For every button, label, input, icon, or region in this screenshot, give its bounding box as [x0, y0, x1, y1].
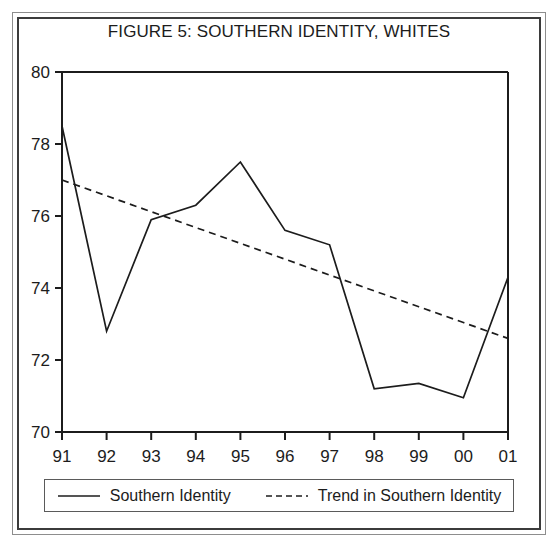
svg-text:72: 72: [31, 351, 50, 370]
legend-entry-trend-in-southern-identity: Trend in Southern Identity: [265, 487, 502, 505]
svg-text:96: 96: [276, 447, 295, 466]
svg-text:95: 95: [231, 447, 250, 466]
svg-text:00: 00: [454, 447, 473, 466]
y-axis-tick-labels: 707274767880: [31, 63, 50, 442]
svg-text:92: 92: [97, 447, 116, 466]
series-line-southern-identity: [62, 126, 508, 398]
chart-series-lines: [62, 126, 508, 398]
svg-text:74: 74: [31, 279, 50, 298]
chart-tick-marks: [55, 72, 508, 440]
svg-text:94: 94: [186, 447, 205, 466]
solid-line-swatch-icon: [57, 490, 101, 502]
svg-text:98: 98: [365, 447, 384, 466]
x-axis-tick-labels: 9192939495969798990001: [53, 447, 518, 466]
svg-text:78: 78: [31, 135, 50, 154]
svg-text:01: 01: [499, 447, 518, 466]
svg-text:99: 99: [409, 447, 428, 466]
legend-label-trend-in-southern-identity: Trend in Southern Identity: [318, 487, 502, 505]
chart-legend: Southern Identity Trend in Southern Iden…: [44, 479, 514, 512]
svg-text:70: 70: [31, 423, 50, 442]
line-chart-plot: 707274767880 9192939495969798990001: [17, 17, 541, 467]
svg-text:80: 80: [31, 63, 50, 82]
svg-text:93: 93: [142, 447, 161, 466]
svg-text:91: 91: [53, 447, 72, 466]
figure-root: FIGURE 5: SOUTHERN IDENTITY, WHITES 7072…: [0, 0, 560, 551]
series-line-trend-in-southern-identity: [62, 180, 508, 338]
dashed-line-swatch-icon: [265, 490, 309, 502]
legend-label-southern-identity: Southern Identity: [110, 487, 231, 505]
svg-text:76: 76: [31, 207, 50, 226]
chart-axes: [62, 72, 508, 432]
legend-entry-southern-identity: Southern Identity: [57, 487, 231, 505]
svg-text:97: 97: [320, 447, 339, 466]
